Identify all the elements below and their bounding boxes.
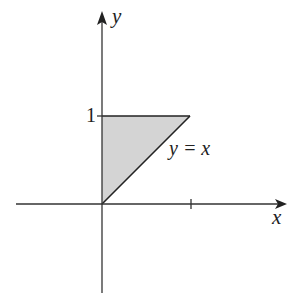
- y-tick-label-1: 1: [86, 104, 96, 126]
- diagram: y x 1 y = x: [0, 0, 287, 298]
- y-axis-label: y: [110, 4, 122, 28]
- x-axis-label: x: [271, 205, 282, 229]
- curve-label: y = x: [167, 137, 210, 160]
